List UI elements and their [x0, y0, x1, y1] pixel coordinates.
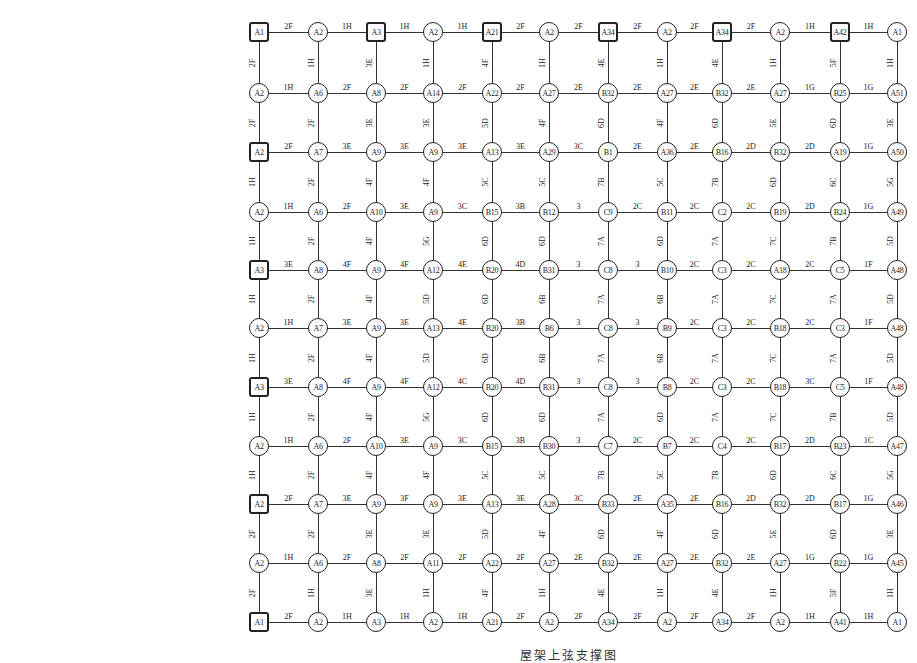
member-label: 7A [711, 294, 720, 304]
grid-node: A2 [539, 612, 559, 632]
grid-node: A8 [366, 83, 386, 103]
member-label: 3E [365, 118, 374, 127]
member-label: 3 [636, 260, 640, 269]
member-label: 3 [636, 318, 640, 327]
member-label: 2F [284, 142, 292, 151]
member-label: 5C [538, 177, 547, 186]
member-label: 2F [307, 353, 316, 361]
member-label: 2F [307, 471, 316, 479]
member-label: 2C [805, 260, 814, 269]
grid-node: A1 [887, 612, 907, 632]
grid-node: A7 [308, 494, 328, 514]
member-label: 5D [422, 294, 431, 304]
member-label: 1H [458, 612, 468, 621]
member-label: 2E [690, 494, 699, 503]
grid-node: A27 [539, 83, 559, 103]
member-label: 3E [365, 588, 374, 597]
member-label: 1H [422, 588, 431, 598]
grid-node: B12 [539, 202, 559, 222]
member-label: 2E [574, 83, 583, 92]
grid-node: B18 [770, 377, 790, 397]
grid-node: A42 [830, 22, 850, 42]
member-label: 2F [307, 118, 316, 126]
grid-node: A2 [249, 494, 269, 514]
grid-node: A49 [887, 202, 907, 222]
member-label: 7C [769, 294, 778, 303]
member-label: 6D [829, 529, 838, 539]
grid-node: A34 [712, 612, 732, 632]
member-label: 2C [746, 202, 755, 211]
member-label: 4F [343, 260, 351, 269]
grid-node: B32 [598, 83, 618, 103]
member-label: 4E [711, 588, 720, 597]
member-label: 2F [633, 612, 641, 621]
member-label: 1H [769, 588, 778, 598]
member-label: 2D [805, 202, 815, 211]
member-label: 4E [458, 318, 467, 327]
member-label: 6B [538, 294, 547, 303]
member-label: 6B [538, 353, 547, 362]
member-label: 4F [400, 260, 408, 269]
member-label: 7A [711, 353, 720, 363]
grid-node: A13 [482, 142, 502, 162]
member-label: 2E [633, 553, 642, 562]
member-label: 4F [481, 588, 490, 596]
grid-node: A6 [308, 83, 328, 103]
member-label: 2C [690, 260, 699, 269]
grid-node: B32 [598, 553, 618, 573]
member-label: 1H [656, 588, 665, 598]
member-label: 6D [711, 529, 720, 539]
member-label: 1H [422, 58, 431, 68]
member-label: 1H [538, 58, 547, 68]
member-label: 1H [886, 58, 895, 68]
member-label: 5C [481, 470, 490, 479]
grid-node: A12 [423, 260, 443, 280]
member-label: 2E [747, 553, 756, 562]
member-label: 1H [307, 588, 316, 598]
member-label: 6D [829, 118, 838, 128]
grid-node: A2 [423, 22, 443, 42]
grid-node: A2 [249, 202, 269, 222]
member-label: 5F [829, 58, 838, 66]
member-label: 4F [343, 377, 351, 386]
grid-node: B20 [482, 377, 502, 397]
member-label: 4F [365, 471, 374, 479]
member-label: 5C [656, 470, 665, 479]
member-label: 2C [746, 436, 755, 445]
grid-node: A28 [539, 494, 559, 514]
member-label: 2C [690, 377, 699, 386]
member-label: 1H [805, 612, 815, 621]
member-label: 4F [365, 237, 374, 245]
member-label: 7B [597, 177, 606, 186]
grid-node: C7 [598, 436, 618, 456]
member-label: 2F [574, 612, 582, 621]
member-label: 2C [746, 260, 755, 269]
grid-node: A48 [887, 318, 907, 338]
member-label: 4F [422, 178, 431, 186]
member-label: 3E [365, 529, 374, 538]
grid-node: B1 [598, 142, 618, 162]
grid-node: B32 [712, 83, 732, 103]
member-label: 1H [864, 612, 874, 621]
member-label: 5C [538, 470, 547, 479]
member-label: 6D [597, 118, 606, 128]
grid-node: A9 [366, 260, 386, 280]
grid-node: B32 [770, 142, 790, 162]
member-label: 5D [422, 353, 431, 363]
grid-node: A34 [712, 22, 732, 42]
member-label: 2C [746, 318, 755, 327]
member-label: 1H [284, 553, 294, 562]
grid-node: B33 [598, 494, 618, 514]
member-label: 3C [458, 436, 467, 445]
member-label: 2F [458, 83, 466, 92]
member-label: 1G [864, 83, 874, 92]
member-label: 1H [656, 58, 665, 68]
member-label: 2D [805, 142, 815, 151]
member-label: 2C [746, 377, 755, 386]
member-label: 1F [864, 260, 872, 269]
member-label: 7C [769, 412, 778, 421]
grid-node: A2 [539, 22, 559, 42]
grid-node: B17 [830, 494, 850, 514]
member-label: 1F [864, 377, 872, 386]
member-label: 1H [248, 294, 257, 304]
